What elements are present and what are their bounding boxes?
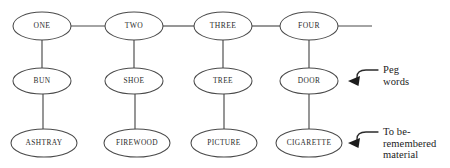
node-door: DOOR [280,68,338,94]
annotation-label-peg-words: Peg words [383,64,409,87]
node-cigarette: CIGARETTE [276,129,342,157]
annotation-arrow-material [348,132,378,148]
node-shoe: SHOE [105,68,163,94]
node-label-door: DOOR [298,76,321,85]
material-arrow-curve [357,132,378,143]
node-label-cigarette: CIGARETTE [287,138,332,147]
node-label-tree: TREE [213,76,233,85]
node-label-firewood: FIREWOOD [116,138,158,147]
node-four: FOUR [280,12,338,40]
node-label-three: THREE [210,21,236,30]
node-label-one: ONE [34,21,51,30]
vertical-connectors [42,40,309,129]
material-arrow-head-icon [348,138,360,148]
node-tree: TREE [194,68,252,94]
node-ashtray: ASHTRAY [11,129,77,157]
annotation-label-to-be-remembered-material: To be- remembered material [383,126,436,161]
annotation-arrow-peg-words [348,70,378,86]
node-label-shoe: SHOE [124,76,145,85]
node-label-four: FOUR [298,21,320,30]
peg-words-arrow-curve [357,70,378,81]
node-label-picture: PICTURE [207,138,241,147]
node-label-two: TWO [125,21,144,30]
node-one: ONE [13,12,71,40]
node-three: THREE [194,12,252,40]
peg-word-diagram: ONETWOTHREEFOURBUNSHOETREEDOORASHTRAYFIR… [0,0,450,168]
node-bun: BUN [13,68,71,94]
node-picture: PICTURE [191,129,257,157]
peg-words-arrow-head-icon [348,76,360,86]
diagram-nodes: ONETWOTHREEFOURBUNSHOETREEDOORASHTRAYFIR… [11,12,342,157]
node-label-bun: BUN [34,76,51,85]
node-two: TWO [105,12,163,40]
annotation-arrows [348,70,378,148]
node-label-ashtray: ASHTRAY [25,138,62,147]
node-firewood: FIREWOOD [104,129,170,157]
